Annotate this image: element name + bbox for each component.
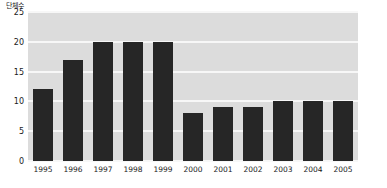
x-axis-tick-label: 1997 [93, 165, 112, 174]
x-axis-tick-label: 2005 [333, 165, 352, 174]
bar [273, 101, 292, 161]
plot-area [28, 12, 358, 161]
x-axis-tick-label: 2001 [213, 165, 232, 174]
x-axis-tick-label: 2004 [303, 165, 322, 174]
bar [123, 42, 142, 161]
x-axis-tick-label: 2000 [183, 165, 202, 174]
y-axis-tick-label: 5 [19, 127, 24, 136]
x-axis-tick-label: 1999 [153, 165, 172, 174]
y-axis-tick-label: 25 [14, 8, 24, 17]
y-axis-tick-label: 10 [14, 97, 24, 106]
bar [333, 101, 352, 161]
x-axis: 1995199619971998199920002001200220032004… [28, 163, 358, 179]
bar [303, 101, 322, 161]
bar [213, 107, 232, 161]
y-axis: 0510152025 [0, 12, 28, 161]
bar [243, 107, 262, 161]
x-axis-tick-label: 1996 [63, 165, 82, 174]
y-axis-tick-label: 20 [14, 37, 24, 46]
bar [153, 42, 172, 161]
y-axis-tick-label: 15 [14, 67, 24, 76]
y-axis-tick-label: 0 [19, 157, 24, 166]
x-axis-tick-label: 1998 [123, 165, 142, 174]
bar [93, 42, 112, 161]
bar [63, 60, 82, 161]
x-axis-tick-label: 2003 [273, 165, 292, 174]
bar [33, 89, 52, 161]
bar [183, 113, 202, 161]
x-axis-tick-label: 1995 [33, 165, 52, 174]
bar-chart: 단체수 0510152025 1995199619971998199920002… [0, 0, 387, 188]
bar-series [28, 12, 358, 161]
x-axis-tick-label: 2002 [243, 165, 262, 174]
